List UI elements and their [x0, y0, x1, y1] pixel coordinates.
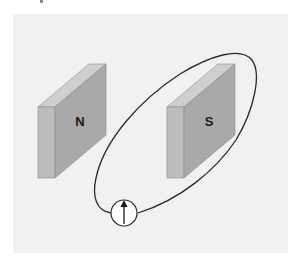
- north-magnet: N: [38, 64, 106, 178]
- galvanometer: [111, 200, 137, 226]
- north-magnet-side: [38, 107, 55, 178]
- south-pole-label: S: [205, 114, 214, 129]
- north-pole-label: N: [75, 114, 84, 129]
- diagram-scene: N S: [0, 0, 299, 260]
- south-magnet: S: [167, 64, 235, 178]
- south-magnet-side: [167, 107, 184, 178]
